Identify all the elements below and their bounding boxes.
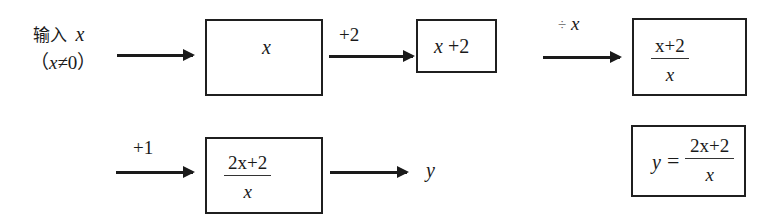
numerator: 2x+2 xyxy=(685,136,734,159)
arrow-box1-to-box2 xyxy=(329,55,413,58)
result-lhs: y xyxy=(652,152,661,172)
result-eq: = xyxy=(667,150,679,172)
output-var: y xyxy=(426,160,435,180)
arrow-input-to-box1 xyxy=(117,54,193,57)
fraction: 2x+2 x xyxy=(224,153,271,201)
denominator: x xyxy=(705,159,713,184)
numerator: 2x+2 xyxy=(224,153,271,176)
box-fraction-x-plus-2-over-x: x+2 x xyxy=(632,18,747,96)
fraction: 2x+2 x xyxy=(685,136,734,184)
box-fraction-2x-plus-2-over-x: 2x+2 x xyxy=(205,137,323,214)
op-divide-x: ÷ x xyxy=(558,14,579,33)
denominator: x xyxy=(243,176,251,201)
box-x-plus-2-text: x +2 xyxy=(434,36,469,56)
input-condition: （x≠0） xyxy=(30,53,96,72)
box-x-plus-2: x +2 xyxy=(416,19,497,73)
arrow-to-box4 xyxy=(116,171,193,174)
input-var: x xyxy=(76,23,85,45)
box-x: x xyxy=(205,19,323,96)
numerator: x+2 xyxy=(651,36,689,59)
op-plus-2: +2 xyxy=(339,25,359,44)
input-label: 输入 x xyxy=(33,24,84,44)
result-box: y = 2x+2 x xyxy=(631,125,746,197)
arrow-box4-to-output xyxy=(330,171,407,174)
denominator: x xyxy=(666,59,674,84)
box-x-text: x xyxy=(262,37,271,57)
op-plus-1: +1 xyxy=(133,138,153,157)
input-label-cn: 输入 xyxy=(33,25,67,45)
divide-sign-icon: ÷ xyxy=(558,17,566,33)
arrow-box2-to-box3 xyxy=(543,56,620,59)
fraction: x+2 x xyxy=(651,36,689,84)
